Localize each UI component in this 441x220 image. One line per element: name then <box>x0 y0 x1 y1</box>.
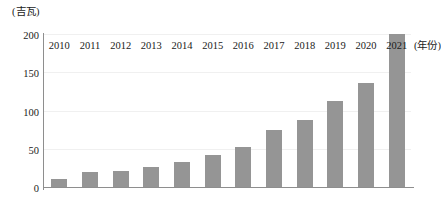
bar-2014 <box>174 162 190 187</box>
bar-2015 <box>205 155 221 187</box>
x-axis-tick-label: 2020 <box>356 40 377 52</box>
x-axis-tick-label: 2017 <box>264 40 285 52</box>
y-axis-tick-label: 100 <box>23 106 39 117</box>
bar-slot <box>259 35 290 187</box>
bar-2011 <box>82 172 98 187</box>
bar-2017 <box>266 130 282 187</box>
y-axis-tick-label: 50 <box>29 144 40 155</box>
bar-2018 <box>297 120 313 187</box>
bar-2012 <box>113 171 129 187</box>
x-axis-tick-label: 2013 <box>141 40 162 52</box>
bar-slot <box>197 35 228 187</box>
x-axis-tick-label: 2014 <box>172 40 193 52</box>
plot-area: 050100150200 201020112012201320142015201… <box>43 35 411 188</box>
bar-2020 <box>358 83 374 187</box>
x-axis-tick-label: 2021 <box>386 40 407 52</box>
bar-2010 <box>51 179 67 187</box>
x-axis-tick-label: 2016 <box>233 40 254 52</box>
bar-slot <box>167 35 198 187</box>
x-axis-tick-label: 2018 <box>294 40 315 52</box>
bar-2013 <box>143 167 159 187</box>
x-axis-tick-label: 2012 <box>110 40 131 52</box>
bars-layer <box>44 35 411 187</box>
x-axis-tick-label: 2011 <box>80 40 101 52</box>
bar-2016 <box>235 147 251 187</box>
y-axis-tick-label: 200 <box>23 30 39 41</box>
x-axis-tick-label: 2015 <box>202 40 223 52</box>
bar-slot <box>289 35 320 187</box>
bar-slot <box>320 35 351 187</box>
bar-slot <box>381 35 412 187</box>
bar-slot <box>228 35 259 187</box>
bar-slot <box>44 35 75 187</box>
y-axis-tick-label: 150 <box>23 68 39 79</box>
bar-slot <box>75 35 106 187</box>
x-axis-tick-label: 2010 <box>49 40 70 52</box>
bar-2021 <box>389 34 405 187</box>
x-axis-unit-label: (年份) <box>414 40 441 52</box>
y-axis-tick-label: 0 <box>34 183 39 194</box>
bar-slot <box>105 35 136 187</box>
bar-slot <box>136 35 167 187</box>
y-axis-unit-label: (吉瓦) <box>12 6 40 18</box>
x-axis-line <box>43 187 414 188</box>
x-axis-tick-label: 2019 <box>325 40 346 52</box>
bar-2019 <box>327 101 343 187</box>
bar-slot <box>351 35 382 187</box>
